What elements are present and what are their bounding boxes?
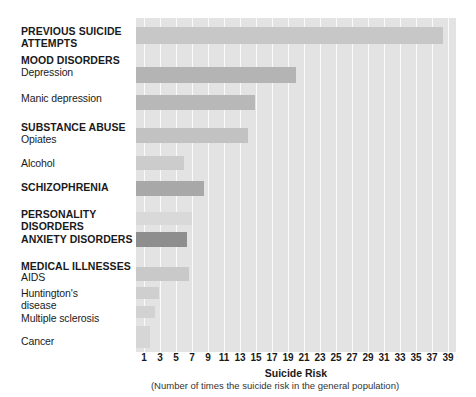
x-tick-label: 17 (266, 352, 277, 363)
category-label: Alcohol (21, 158, 139, 170)
x-tick-label: 29 (362, 352, 373, 363)
gridline (416, 18, 417, 352)
x-tick-label: 21 (298, 352, 309, 363)
bar-huntingtons-disease (136, 287, 159, 299)
x-tick-label: 35 (410, 352, 421, 363)
bar-personality-disorders (136, 212, 192, 225)
x-tick-label: 39 (442, 352, 453, 363)
gridline (336, 18, 337, 352)
x-axis-tick-labels: 13579111315171921232527293133353739 (136, 352, 456, 368)
bar-previous-suicide-attempts (136, 27, 443, 44)
category-label: Depression (21, 67, 139, 79)
category-label: PERSONALITY DISORDERS (21, 209, 139, 233)
gridline (400, 18, 401, 352)
bar-opiates (136, 128, 248, 143)
x-tick-label: 1 (141, 352, 147, 363)
x-tick-label: 3 (157, 352, 163, 363)
category-label: Multiple sclerosis (21, 313, 139, 325)
gridline (432, 18, 433, 352)
category-label: ANXIETY DISORDERS (21, 234, 139, 246)
x-tick-label: 15 (250, 352, 261, 363)
x-axis-subtitle: (Number of times the suicide risk in the… (80, 380, 470, 391)
bar-depression (136, 67, 296, 83)
bar-multiple-sclerosis (136, 306, 155, 318)
category-label: PREVIOUS SUICIDE ATTEMPTS (21, 26, 139, 50)
bar-schizophrenia (136, 181, 204, 196)
category-label: Manic depression (21, 93, 139, 105)
x-tick-label: 27 (346, 352, 357, 363)
gridline (304, 18, 305, 352)
category-label: SCHIZOPHRENIA (21, 182, 139, 194)
bar-anxiety-disorders (136, 232, 187, 247)
category-label: Cancer (21, 336, 139, 348)
x-tick-label: 31 (378, 352, 389, 363)
x-tick-label: 23 (314, 352, 325, 363)
plot-area (136, 18, 456, 352)
gridline (448, 18, 449, 352)
gridline (320, 18, 321, 352)
x-tick-label: 5 (173, 352, 179, 363)
bar-cancer (136, 326, 150, 348)
bar-manic-depression (136, 95, 255, 110)
x-tick-label: 19 (282, 352, 293, 363)
bar-alcohol (136, 156, 184, 170)
x-tick-label: 25 (330, 352, 341, 363)
x-axis-title: Suicide Risk (136, 367, 456, 379)
category-label: Opiates (21, 134, 139, 146)
category-label: Huntington's disease (21, 288, 139, 312)
x-tick-label: 9 (205, 352, 211, 363)
x-tick-label: 7 (189, 352, 195, 363)
x-tick-label: 11 (219, 352, 230, 363)
x-tick-label: 33 (394, 352, 405, 363)
x-tick-label: 13 (234, 352, 245, 363)
suicide-risk-bar-chart: PREVIOUS SUICIDE ATTEMPTSMOOD DISORDERSD… (0, 0, 476, 397)
gridline (352, 18, 353, 352)
gridline (384, 18, 385, 352)
bar-aids (136, 267, 189, 281)
gridline (368, 18, 369, 352)
category-label: AIDS (21, 272, 139, 284)
category-label-column: PREVIOUS SUICIDE ATTEMPTSMOOD DISORDERSD… (0, 0, 136, 352)
x-tick-label: 37 (426, 352, 437, 363)
